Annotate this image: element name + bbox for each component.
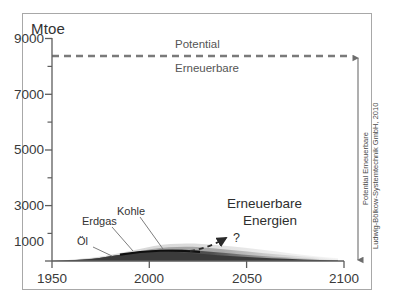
renewables-callout-line1: Erneuerbare xyxy=(227,196,302,211)
x-tick-label-2000: 2000 xyxy=(119,271,179,286)
series-callout-erdgas: Erdgas xyxy=(82,215,117,227)
y-tick-label-3000: 3000 xyxy=(0,198,44,213)
side-measure-label: Potential Erneuerbare xyxy=(361,132,370,205)
x-tick-label-2100: 2100 xyxy=(314,271,374,286)
y-tick-label-9000: 9000 xyxy=(0,31,44,46)
y-tick-label-7000: 7000 xyxy=(0,87,44,102)
stacked-area-group xyxy=(52,244,338,261)
y-tick-label-5000: 5000 xyxy=(0,142,44,157)
x-axis-ticks xyxy=(52,261,344,268)
x-tick-label-1950: 1950 xyxy=(22,271,82,286)
series-callout-oel: Öl xyxy=(77,235,88,247)
potential-label-above: Potential xyxy=(175,38,220,50)
y-tick-label-1000: 1000 xyxy=(0,234,44,249)
renewables-callout-line2: Energien xyxy=(243,213,297,228)
y-axis-major-ticks xyxy=(45,39,52,262)
chart-figure: Mtoe xyxy=(0,0,394,304)
potential-label-below: Erneuerbare xyxy=(175,62,239,74)
uncertainty-question-mark: ? xyxy=(233,231,240,245)
series-callout-kohle: Kohle xyxy=(117,205,145,217)
source-credit: Ludwig-Bölkow-Systemtechnik GmbH, 2010 xyxy=(371,103,380,249)
x-tick-label-2050: 2050 xyxy=(217,271,277,286)
